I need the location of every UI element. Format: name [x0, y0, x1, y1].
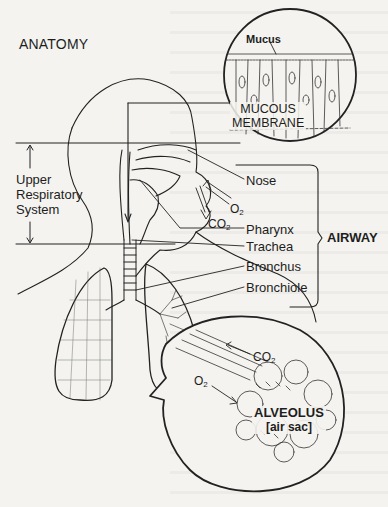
upper-respiratory-label: Upper Respiratory System	[16, 172, 82, 217]
label-o2-alveolus: O2	[194, 374, 208, 392]
upper-respiratory-line-2: Respiratory	[16, 187, 82, 202]
co2-text: CO	[208, 217, 226, 231]
alveolus-line-2: [air sac]	[254, 420, 324, 434]
respiratory-illustration	[0, 0, 388, 507]
alveolus-label: ALVEOLUS [air sac]	[252, 406, 326, 434]
mucous-membrane-label: MUCOUS MEMBRANE	[230, 102, 306, 130]
alveolus-inset	[150, 316, 344, 491]
label-co2-out: CO2	[208, 217, 230, 235]
o2-text: O	[230, 202, 239, 216]
upper-respiratory-line-1: Upper	[16, 172, 51, 187]
o2-subscript: 2	[239, 208, 243, 217]
label-nose: Nose	[246, 174, 276, 188]
anatomy-figure: ANATOMY Upper Respiratory System Mucus M…	[0, 0, 388, 507]
co2-subscript: 2	[271, 356, 275, 365]
label-co2-alveolus: CO2	[253, 350, 275, 368]
mucous-membrane-line-2: MEMBRANE	[232, 116, 304, 130]
co2-subscript: 2	[226, 223, 230, 232]
alveolus-line-1: ALVEOLUS	[254, 405, 324, 420]
trachea	[124, 240, 136, 300]
head-outline	[72, 79, 211, 276]
label-trachea: Trachea	[246, 240, 293, 254]
label-bronchus: Bronchus	[246, 260, 301, 274]
label-o2-in: O2	[230, 202, 244, 220]
o2-text: O	[194, 374, 203, 388]
figure-title: ANATOMY	[19, 37, 88, 51]
left-lung	[55, 268, 112, 400]
o2-subscript: 2	[203, 380, 207, 389]
label-pharynx: Pharynx	[246, 223, 294, 237]
airway-group-label: AIRWAY	[327, 231, 378, 245]
mucous-membrane-line-1: MUCOUS	[240, 102, 296, 116]
mucus-label: Mucus	[246, 32, 281, 46]
co2-text: CO	[253, 350, 271, 364]
label-bronchiole: Bronchiole	[246, 281, 307, 295]
upper-respiratory-line-3: System	[16, 202, 59, 217]
